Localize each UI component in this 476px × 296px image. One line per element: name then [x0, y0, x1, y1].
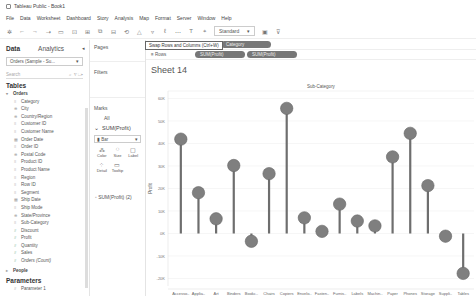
filters-shelf[interactable]: Filters: [90, 62, 145, 98]
lollipop-head[interactable]: [245, 235, 257, 247]
field-item[interactable]: ≡Product ID: [0, 158, 89, 166]
lollipop-head[interactable]: [228, 159, 240, 171]
shelves-pane: Pages Filters Marks All ⌄ SUM(Profit) ▮ …: [90, 40, 146, 296]
new-datasource-icon[interactable]: ⊡: [71, 28, 77, 35]
field-item[interactable]: ≡Customer Name: [0, 128, 89, 136]
field-item[interactable]: ≡Customer ID: [0, 120, 89, 128]
menu-file[interactable]: File: [6, 15, 14, 21]
pin-icon[interactable]: ⌖: [201, 28, 207, 35]
lollipop-head[interactable]: [422, 179, 434, 191]
table-people[interactable]: ▸ People: [0, 267, 89, 275]
lollipop-head[interactable]: [404, 127, 416, 139]
marks-sum-profit-2-tab[interactable]: ◦ SUM(Profit) (2): [90, 176, 145, 200]
scrollbar[interactable]: [85, 108, 88, 288]
swap-icon[interactable]: ⟲: [123, 28, 129, 35]
lollipop-head[interactable]: [386, 151, 398, 163]
menu-format[interactable]: Format: [155, 15, 171, 21]
lollipop-head[interactable]: [210, 213, 222, 225]
table-orders[interactable]: ▾ Orders: [0, 90, 89, 98]
forward-icon[interactable]: →: [32, 28, 38, 34]
lollipop-head[interactable]: [281, 102, 293, 114]
back-icon[interactable]: ←: [19, 28, 25, 34]
lollipop-head[interactable]: [351, 215, 363, 227]
highlight-icon[interactable]: ℓ: [162, 28, 168, 34]
lollipop-head[interactable]: [298, 212, 310, 224]
menu-help[interactable]: Help: [221, 15, 231, 21]
menu-server[interactable]: Server: [177, 15, 192, 21]
sort-asc-icon[interactable]: △: [136, 28, 142, 35]
rows-shelf[interactable]: ≡ Rows SUM(Profit) SUM(Profit): [146, 50, 476, 60]
menu-analysis[interactable]: Analysis: [115, 15, 134, 21]
tab-analytics[interactable]: Analytics: [38, 45, 64, 54]
label-button[interactable]: ▢Label: [125, 146, 141, 158]
field-item[interactable]: ⊕City: [0, 105, 89, 113]
filter-icon[interactable]: ⌕ ∇ ▤▾: [69, 72, 83, 78]
field-item[interactable]: ≡Sub-Category: [0, 219, 89, 227]
lollipop-head[interactable]: [263, 167, 275, 179]
menu-data[interactable]: Data: [20, 15, 31, 21]
clear-icon[interactable]: ⊟: [110, 28, 116, 35]
field-item[interactable]: ≡Product Name: [0, 166, 89, 174]
field-item[interactable]: #Discount: [0, 227, 89, 235]
lollipop-head[interactable]: [457, 267, 469, 279]
menu-story[interactable]: Story: [97, 15, 109, 21]
field-item[interactable]: ▦Ship Date: [0, 196, 89, 204]
share-icon[interactable]: ⊽: [275, 28, 281, 35]
field-item[interactable]: ≡Order ID: [0, 143, 89, 151]
menu-window[interactable]: Window: [198, 15, 216, 21]
lollipop-head[interactable]: [369, 220, 381, 232]
lollipop-chart[interactable]: Sub-Category60K50K40K30K20K10K0K-10K-20K…: [146, 80, 476, 296]
field-item[interactable]: #Orders (Count): [0, 257, 89, 265]
tooltip-button[interactable]: ▭Tooltip: [110, 161, 126, 173]
field-item[interactable]: #Quantity: [0, 242, 89, 250]
lollipop-head[interactable]: [316, 225, 328, 237]
color-button[interactable]: ⁂Color: [94, 146, 110, 158]
field-item[interactable]: #Sales: [0, 249, 89, 257]
lollipop-head[interactable]: [175, 133, 187, 145]
field-item[interactable]: ≡Ship Mode: [0, 204, 89, 212]
menu-worksheet[interactable]: Worksheet: [37, 15, 61, 21]
field-item[interactable]: ⊕State/Province: [0, 212, 89, 220]
label-icon[interactable]: T: [188, 28, 194, 34]
rows-pill-sum-profit[interactable]: SUM(Profit): [195, 51, 245, 58]
redo-icon[interactable]: ⇢: [45, 28, 51, 35]
datasource-selector[interactable]: Orders (Sample - Su... ▾: [6, 57, 83, 66]
detail-button[interactable]: ⁘Detail: [94, 161, 110, 173]
presentation-icon[interactable]: ▣: [262, 28, 268, 35]
field-item[interactable]: ⊕Country/Region: [0, 113, 89, 121]
new-sheet-icon[interactable]: ⊞: [84, 28, 90, 35]
field-item[interactable]: #Profit: [0, 234, 89, 242]
group-icon[interactable]: ⋯: [175, 28, 181, 35]
marks-all-tab[interactable]: All: [90, 111, 145, 121]
field-item[interactable]: ≡Region: [0, 174, 89, 182]
columns-pill-category[interactable]: Category: [221, 41, 271, 48]
collapse-icon[interactable]: ◂: [82, 45, 85, 54]
rows-pill-sum-profit-2[interactable]: SUM(Profit): [247, 51, 297, 58]
menu-map[interactable]: Map: [139, 15, 149, 21]
marks-sum-profit-tab[interactable]: ⌄ SUM(Profit): [90, 121, 145, 131]
sort-desc-icon[interactable]: ▿: [149, 28, 155, 35]
duplicate-icon[interactable]: ⧉: [97, 28, 103, 35]
lollipop-head[interactable]: [192, 186, 204, 198]
field-item[interactable]: ▦Order Date: [0, 136, 89, 144]
size-button[interactable]: ◌Size: [110, 146, 126, 158]
field-item[interactable]: ⊕Postal Code: [0, 151, 89, 159]
geo-field-icon: ⊕: [14, 113, 18, 121]
field-item[interactable]: ≡Segment: [0, 189, 89, 197]
measure-field-icon: #: [14, 227, 18, 235]
search-input[interactable]: Search ⌕ ∇ ▤▾: [6, 72, 83, 79]
tableau-logo-icon[interactable]: ✲: [6, 28, 12, 35]
x-tick-label: Machin..: [367, 291, 382, 296]
dim-field-icon: ≡: [14, 204, 18, 212]
save-icon[interactable]: ▭: [58, 28, 64, 35]
tooltip-label: Tooltip: [112, 168, 124, 173]
lollipop-head[interactable]: [333, 198, 345, 210]
field-item[interactable]: ≡Category: [0, 98, 89, 106]
menu-dashboard[interactable]: Dashboard: [66, 15, 90, 21]
parameter-item[interactable]: # Parameter 1: [0, 285, 89, 293]
fit-dropdown[interactable]: Standard ▾: [214, 26, 255, 36]
lollipop-head[interactable]: [439, 230, 451, 242]
tab-data[interactable]: Data: [6, 45, 20, 54]
field-item[interactable]: ≡Row ID: [0, 181, 89, 189]
mark-type-dropdown[interactable]: ▮ Bar ▾: [94, 135, 141, 143]
